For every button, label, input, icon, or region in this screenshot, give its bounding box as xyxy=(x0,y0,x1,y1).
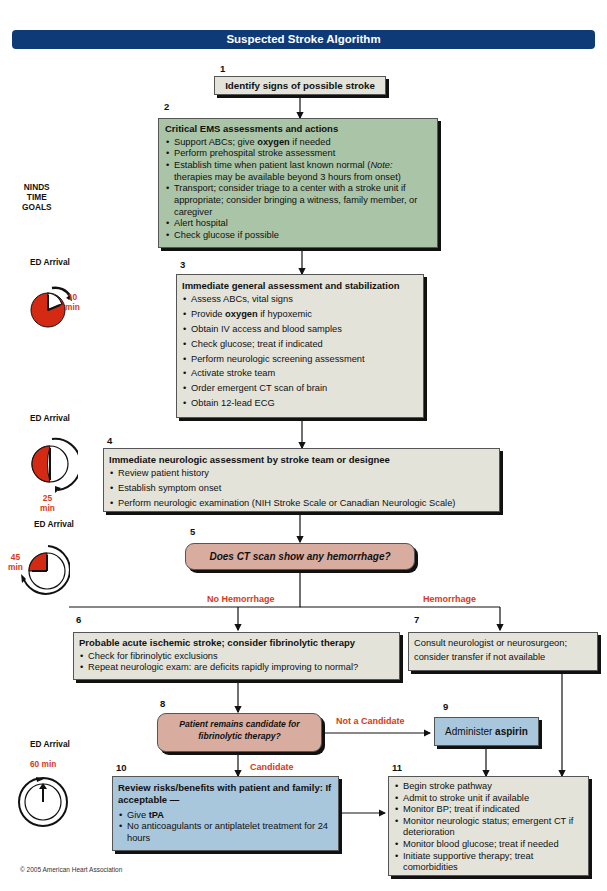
step-number-10: 10 xyxy=(116,762,127,773)
list-item: Provide oxygen if hypoxemic xyxy=(182,309,418,321)
clock-60-min-icon xyxy=(18,772,68,832)
step-number-4: 4 xyxy=(107,435,112,446)
clock-label-10: ED Arrival xyxy=(30,258,70,268)
list-item: No anticoagulants or antiplatelet treatm… xyxy=(118,821,333,844)
step-2-list: Support ABCs; give oxygen if neededPerfo… xyxy=(165,137,431,241)
step-2-box: Critical EMS assessments and actions Sup… xyxy=(158,118,438,248)
clock-label-45: ED Arrival xyxy=(34,520,74,530)
clock-45-min-icon xyxy=(20,543,70,601)
step-8-decision: Patient remains candidate for fibrinolyt… xyxy=(157,713,322,752)
step-number-11: 11 xyxy=(392,762,402,773)
list-item: Admit to stroke unit if available xyxy=(394,793,583,805)
copyright: © 2005 American Heart Association xyxy=(20,866,122,873)
list-item: Transport; consider triage to a center w… xyxy=(165,183,431,218)
step-6-title: Probable acute ischemic stroke; consider… xyxy=(79,637,394,649)
list-item: Check glucose if possible xyxy=(165,230,431,242)
list-item: Check glucose; treat if indicated xyxy=(182,339,418,351)
step-1-box: Identify signs of possible stroke xyxy=(214,76,386,95)
step-11-box: Begin stroke pathwayAdmit to stroke unit… xyxy=(388,776,589,876)
list-item: Monitor neurologic status; emergent CT i… xyxy=(394,816,583,839)
step-7-box: Consult neurologist or neurosurgeon; con… xyxy=(408,632,598,671)
step-10-list: Give tPANo anticoagulants or antiplatele… xyxy=(118,810,333,845)
step-10-title: Review risks/benefits with patient and f… xyxy=(118,782,333,806)
list-item: Perform neurologic examination (NIH Stro… xyxy=(109,498,494,510)
list-item: Initiate supportive therapy; treat comor… xyxy=(394,851,583,874)
list-item: Perform neurologic screening assessment xyxy=(182,354,418,366)
branch-label-candidate: Candidate xyxy=(250,762,294,772)
list-item: Support ABCs; give oxygen if needed xyxy=(165,137,431,149)
clock-time-10: 10 min xyxy=(65,293,80,313)
step-number-8: 8 xyxy=(160,698,165,709)
list-item: Give tPA xyxy=(118,810,333,822)
step-5-decision: Does CT scan show any hemorrhage? xyxy=(185,543,415,570)
clock-time-25: 25 min xyxy=(40,494,55,514)
list-item: Review patient history xyxy=(109,468,494,480)
branch-label-hemorrhage: Hemorrhage xyxy=(423,594,476,604)
branch-label-no-hemorrhage: No Hemorrhage xyxy=(207,594,275,604)
step-2-title: Critical EMS assessments and actions xyxy=(165,123,431,135)
clock-time-45: 45 min xyxy=(8,553,23,573)
list-item: Activate stroke team xyxy=(182,368,418,380)
branch-label-not-candidate: Not a Candidate xyxy=(336,716,405,726)
step-number-5: 5 xyxy=(190,526,195,537)
step-9-box: Administer aspirin xyxy=(434,717,539,746)
list-item: Check for fibrinolytic exclusions xyxy=(79,651,394,663)
clock-25-min-icon xyxy=(28,436,78,496)
step-number-9: 9 xyxy=(443,701,448,712)
step-6-list: Check for fibrinolytic exclusionsRepeat … xyxy=(79,651,394,674)
step-4-title: Immediate neurologic assessment by strok… xyxy=(109,454,494,466)
step-number-2: 2 xyxy=(164,101,169,112)
list-item: Alert hospital xyxy=(165,218,431,230)
step-3-box: Immediate general assessment and stabili… xyxy=(176,274,424,418)
list-item: Begin stroke pathway xyxy=(394,781,583,793)
list-item: Order emergent CT scan of brain xyxy=(182,383,418,395)
step-3-list: Assess ABCs, vital signsProvide oxygen i… xyxy=(182,294,418,410)
clock-label-60: ED Arrival xyxy=(30,740,70,750)
step-number-6: 6 xyxy=(76,614,81,625)
step-number-1: 1 xyxy=(220,63,225,74)
list-item: Assess ABCs, vital signs xyxy=(182,294,418,306)
step-number-3: 3 xyxy=(180,259,185,270)
step-6-box: Probable acute ischemic stroke; consider… xyxy=(73,632,400,680)
step-4-list: Review patient historyEstablish symptom … xyxy=(109,468,494,509)
list-item: Perform prehospital stroke assessment xyxy=(165,148,431,160)
list-item: Repeat neurologic exam: are deficits rap… xyxy=(79,662,394,674)
list-item: Establish symptom onset xyxy=(109,483,494,495)
list-item: Monitor BP; treat if indicated xyxy=(394,804,583,816)
step-10-box: Review risks/benefits with patient and f… xyxy=(112,776,339,851)
list-item: Monitor blood glucose; treat if needed xyxy=(394,839,583,851)
clock-label-25: ED Arrival xyxy=(30,414,70,424)
list-item: Establish time when patient last known n… xyxy=(165,160,431,183)
clock-time-60: 60 min xyxy=(30,760,56,770)
step-3-title: Immediate general assessment and stabili… xyxy=(182,280,418,292)
list-item: Obtain IV access and blood samples xyxy=(182,324,418,336)
step-number-7: 7 xyxy=(414,614,419,625)
step-11-list: Begin stroke pathwayAdmit to stroke unit… xyxy=(394,781,583,874)
ninds-time-goals: NINDS TIME GOALS xyxy=(22,183,52,213)
step-4-box: Immediate neurologic assessment by strok… xyxy=(103,448,500,512)
list-item: Obtain 12-lead ECG xyxy=(182,398,418,410)
